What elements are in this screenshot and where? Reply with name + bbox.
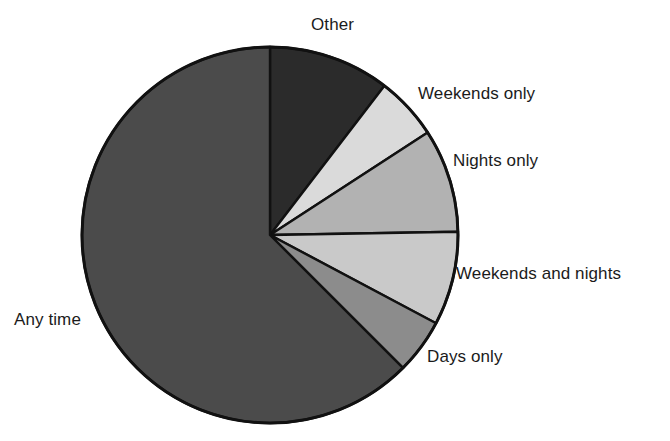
- pie-chart-figure: Other Weekends only Nights only Weekends…: [0, 0, 670, 441]
- pie-label-days-only: Days only: [427, 348, 503, 365]
- pie-label-weekends-only: Weekends only: [418, 85, 535, 102]
- pie-label-any-time: Any time: [14, 311, 81, 328]
- pie-chart-svg: [0, 0, 670, 441]
- pie-slice-group: [82, 47, 458, 423]
- pie-label-nights-only: Nights only: [453, 152, 538, 169]
- pie-label-other: Other: [311, 16, 354, 33]
- pie-label-weekends-and-nights: Weekends and nights: [456, 265, 621, 282]
